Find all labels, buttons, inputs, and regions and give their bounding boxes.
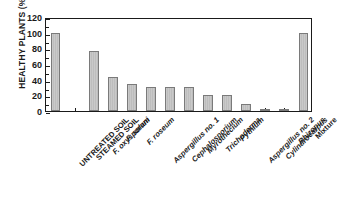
bar (146, 87, 156, 111)
y-tick-label: 0 (8, 108, 42, 117)
bar (222, 95, 232, 111)
bar-series (46, 19, 311, 111)
bar (51, 33, 61, 111)
bar (165, 87, 175, 111)
bar (108, 77, 118, 111)
bar (299, 33, 309, 111)
bar (203, 95, 213, 111)
plot-area (45, 18, 312, 112)
y-axis-tick-labels: 020406080100120 (8, 18, 42, 112)
bar (241, 104, 251, 111)
y-tick-label: 40 (8, 76, 42, 85)
bar (127, 84, 137, 111)
y-tick-label: 100 (8, 29, 42, 38)
bar (89, 51, 99, 111)
bar (184, 87, 194, 111)
y-tick-label: 120 (8, 14, 42, 23)
y-tick-label: 20 (8, 92, 42, 101)
bar (279, 109, 289, 111)
bar (260, 109, 270, 111)
y-tick-label: 60 (8, 61, 42, 70)
y-tick-label: 80 (8, 45, 42, 54)
x-axis-tick-labels: UNTREATED SOILSTEAMED SOILF. oxysporumF.… (45, 112, 312, 220)
